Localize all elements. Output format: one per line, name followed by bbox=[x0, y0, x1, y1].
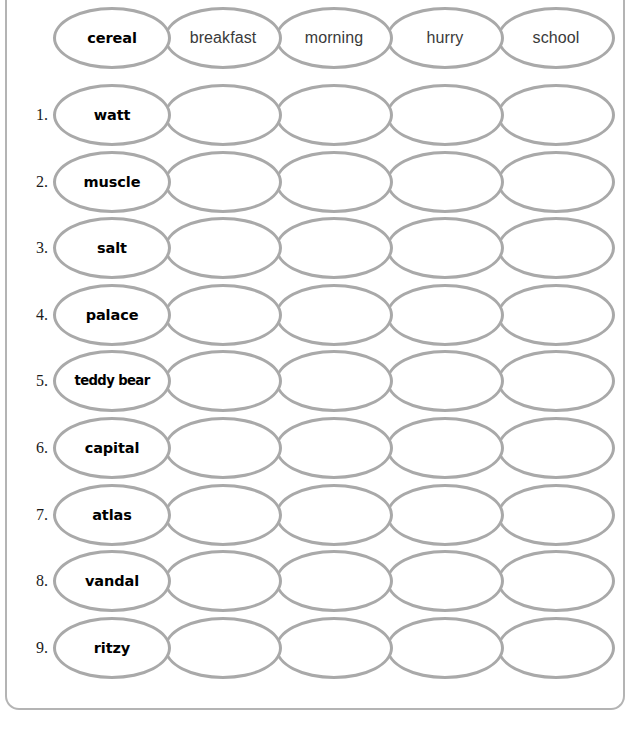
word-oval-label: watt bbox=[53, 84, 171, 146]
header-oval-2[interactable]: morning bbox=[275, 7, 393, 69]
word-oval[interactable]: watt bbox=[53, 84, 171, 146]
answer-oval[interactable] bbox=[275, 550, 393, 612]
answer-oval[interactable] bbox=[497, 151, 615, 213]
blank-oval-label bbox=[164, 350, 282, 412]
worksheet-page: cerealbreakfastmorninghurryschool1.watt2… bbox=[0, 0, 635, 732]
header-oval-label: cereal bbox=[53, 7, 171, 69]
row-number: 3. bbox=[14, 217, 48, 279]
answer-oval[interactable] bbox=[386, 284, 504, 346]
blank-oval-label bbox=[164, 217, 282, 279]
answer-oval[interactable] bbox=[386, 350, 504, 412]
blank-oval-label bbox=[164, 284, 282, 346]
word-oval-label: palace bbox=[53, 284, 171, 346]
answer-oval[interactable] bbox=[164, 84, 282, 146]
blank-oval-label bbox=[275, 151, 393, 213]
answer-oval[interactable] bbox=[497, 217, 615, 279]
table-row: 8.vandal bbox=[0, 550, 635, 612]
blank-oval-label bbox=[497, 417, 615, 479]
association-grid: cerealbreakfastmorninghurryschool1.watt2… bbox=[0, 0, 635, 732]
row-number: 2. bbox=[14, 151, 48, 213]
answer-oval[interactable] bbox=[164, 284, 282, 346]
word-oval[interactable]: capital bbox=[53, 417, 171, 479]
blank-oval-label bbox=[275, 284, 393, 346]
header-oval-4[interactable]: school bbox=[497, 7, 615, 69]
answer-oval[interactable] bbox=[386, 484, 504, 546]
row-number: 8. bbox=[14, 550, 48, 612]
answer-oval[interactable] bbox=[497, 550, 615, 612]
blank-oval-label bbox=[386, 151, 504, 213]
blank-oval-label bbox=[275, 617, 393, 679]
header-row: cerealbreakfastmorninghurryschool bbox=[0, 7, 635, 69]
row-number: 9. bbox=[14, 617, 48, 679]
word-oval[interactable]: vandal bbox=[53, 550, 171, 612]
answer-oval[interactable] bbox=[386, 151, 504, 213]
answer-oval[interactable] bbox=[386, 217, 504, 279]
answer-oval[interactable] bbox=[386, 617, 504, 679]
blank-oval-label bbox=[497, 350, 615, 412]
blank-oval-label bbox=[497, 151, 615, 213]
answer-oval[interactable] bbox=[497, 284, 615, 346]
blank-oval-label bbox=[386, 484, 504, 546]
header-oval-label: school bbox=[497, 7, 615, 69]
blank-oval-label bbox=[497, 484, 615, 546]
answer-oval[interactable] bbox=[164, 484, 282, 546]
blank-oval-label bbox=[275, 417, 393, 479]
blank-oval-label bbox=[275, 217, 393, 279]
answer-oval[interactable] bbox=[275, 284, 393, 346]
header-oval-1[interactable]: breakfast bbox=[164, 7, 282, 69]
answer-oval[interactable] bbox=[164, 550, 282, 612]
answer-oval[interactable] bbox=[497, 350, 615, 412]
answer-oval[interactable] bbox=[164, 417, 282, 479]
blank-oval-label bbox=[497, 217, 615, 279]
word-oval-label: ritzy bbox=[53, 617, 171, 679]
header-oval-3[interactable]: hurry bbox=[386, 7, 504, 69]
word-oval[interactable]: muscle bbox=[53, 151, 171, 213]
answer-oval[interactable] bbox=[386, 84, 504, 146]
blank-oval-label bbox=[497, 550, 615, 612]
answer-oval[interactable] bbox=[275, 484, 393, 546]
answer-oval[interactable] bbox=[497, 84, 615, 146]
answer-oval[interactable] bbox=[275, 151, 393, 213]
blank-oval-label bbox=[386, 417, 504, 479]
answer-oval[interactable] bbox=[275, 84, 393, 146]
row-number: 4. bbox=[14, 284, 48, 346]
answer-oval[interactable] bbox=[164, 151, 282, 213]
row-number: 6. bbox=[14, 417, 48, 479]
word-oval[interactable]: palace bbox=[53, 284, 171, 346]
table-row: 4.palace bbox=[0, 284, 635, 346]
answer-oval[interactable] bbox=[275, 617, 393, 679]
answer-oval[interactable] bbox=[164, 217, 282, 279]
header-oval-label: breakfast bbox=[164, 7, 282, 69]
blank-oval-label bbox=[275, 84, 393, 146]
table-row: 5.teddy bear bbox=[0, 350, 635, 412]
blank-oval-label bbox=[497, 284, 615, 346]
word-oval-label: capital bbox=[53, 417, 171, 479]
answer-oval[interactable] bbox=[275, 217, 393, 279]
word-oval-label: atlas bbox=[53, 484, 171, 546]
blank-oval-label bbox=[386, 284, 504, 346]
table-row: 6.capital bbox=[0, 417, 635, 479]
header-oval-0[interactable]: cereal bbox=[53, 7, 171, 69]
word-oval[interactable]: teddy bear bbox=[53, 350, 171, 412]
answer-oval[interactable] bbox=[497, 484, 615, 546]
blank-oval-label bbox=[275, 484, 393, 546]
word-oval[interactable]: ritzy bbox=[53, 617, 171, 679]
blank-oval-label bbox=[386, 350, 504, 412]
answer-oval[interactable] bbox=[386, 550, 504, 612]
answer-oval[interactable] bbox=[497, 617, 615, 679]
word-oval[interactable]: salt bbox=[53, 217, 171, 279]
answer-oval[interactable] bbox=[386, 417, 504, 479]
blank-oval-label bbox=[164, 550, 282, 612]
word-oval[interactable]: atlas bbox=[53, 484, 171, 546]
table-row: 1.watt bbox=[0, 84, 635, 146]
blank-oval-label bbox=[497, 84, 615, 146]
answer-oval[interactable] bbox=[164, 350, 282, 412]
answer-oval[interactable] bbox=[275, 417, 393, 479]
answer-oval[interactable] bbox=[164, 617, 282, 679]
header-oval-label: hurry bbox=[386, 7, 504, 69]
blank-oval-label bbox=[164, 417, 282, 479]
blank-oval-label bbox=[164, 84, 282, 146]
word-oval-label: vandal bbox=[53, 550, 171, 612]
answer-oval[interactable] bbox=[497, 417, 615, 479]
answer-oval[interactable] bbox=[275, 350, 393, 412]
